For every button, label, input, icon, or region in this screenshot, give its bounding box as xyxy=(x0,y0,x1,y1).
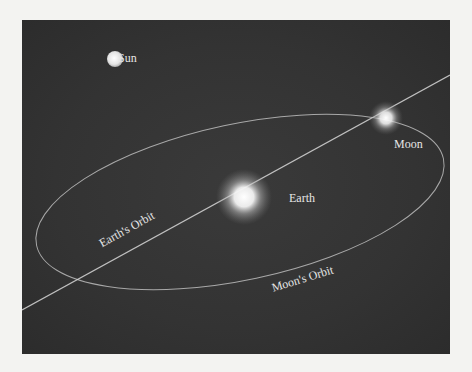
moon-label: Moon xyxy=(394,138,423,150)
earth-label: Earth xyxy=(289,192,315,204)
sun-label: Sun xyxy=(118,52,137,64)
space-diagram: Sun Earth Moon Earth's Orbit Moon's Orbi… xyxy=(22,20,450,354)
moon-icon xyxy=(369,101,403,135)
diagram-canvas xyxy=(22,20,450,354)
earth-icon xyxy=(216,169,272,225)
